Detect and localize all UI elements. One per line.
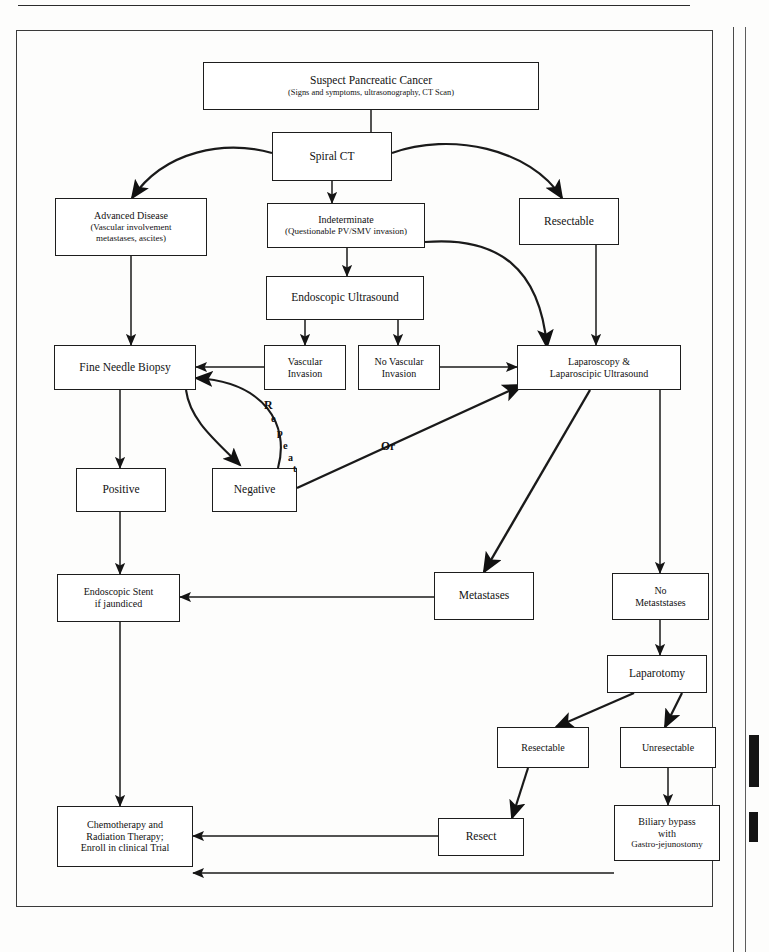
- node-unresectable-title: Unresectable: [642, 742, 694, 754]
- wire-negative-repeat-to-fnb: [196, 378, 281, 468]
- node-positive[interactable]: Positive: [76, 468, 166, 512]
- node-resectable-top[interactable]: Resectable: [519, 198, 619, 245]
- node-resect[interactable]: Resect: [438, 818, 524, 856]
- edge-label-repeat-letter-3: p: [277, 427, 283, 438]
- node-no-vascular-title: No Vascular: [375, 356, 424, 368]
- node-stent-title: Endoscopic Stent: [84, 586, 154, 598]
- node-eus-title: Endoscopic Ultrasound: [291, 291, 399, 305]
- wire-negative-or-to-laparoscopy: [297, 385, 522, 488]
- wire-spiralct-to-resectable: [392, 144, 562, 198]
- node-metastases-title: Metastases: [459, 589, 509, 603]
- node-no-metastases-title-2: Metaststases: [635, 597, 686, 609]
- node-laparoscopy-title-2: Laparoscipic Ultrasound: [550, 368, 649, 380]
- node-endoscopic-stent[interactable]: Endoscopic Stent if jaundiced: [57, 574, 180, 622]
- node-chemo-title-2: Radiation Therapy;: [86, 831, 163, 843]
- node-negative-title: Negative: [234, 483, 276, 497]
- node-laparoscopy-title: Laparoscopy &: [568, 356, 630, 368]
- node-advanced-subtitle: (Vascular involvement: [90, 222, 171, 233]
- node-laparotomy-title: Laparotomy: [629, 667, 685, 681]
- wire-laparotomy-to-resectable: [556, 693, 634, 727]
- node-advanced-disease[interactable]: Advanced Disease (Vascular involvement m…: [55, 198, 207, 256]
- node-resectable-bottom[interactable]: Resectable: [497, 727, 589, 768]
- node-stent-title-2: if jaundiced: [95, 598, 142, 610]
- node-chemotherapy-radiation[interactable]: Chemotherapy and Radiation Therapy; Enro…: [57, 806, 193, 867]
- wire-spiralct-to-advanced: [132, 148, 272, 198]
- node-indeterminate-subtitle: (Questionable PV/SMV invasion): [285, 226, 407, 237]
- edge-label-repeat-letter-4: e: [283, 440, 288, 451]
- node-advanced-subtitle-2: metastases, ascites): [96, 233, 166, 244]
- node-no-vascular-invasion[interactable]: No Vascular Invasion: [358, 345, 440, 390]
- node-chemo-title-3: Enroll in clinical Trial: [81, 842, 170, 854]
- node-fnb-title: Fine Needle Biopsy: [79, 361, 170, 375]
- edge-label-repeat-letter-2: e: [271, 413, 276, 424]
- node-negative[interactable]: Negative: [212, 468, 297, 512]
- node-fine-needle-biopsy[interactable]: Fine Needle Biopsy: [54, 345, 196, 390]
- node-vascular-title: Vascular: [288, 356, 322, 368]
- edge-label-repeat-letter-6: t: [293, 463, 296, 474]
- node-no-metastases-title: No: [654, 585, 666, 597]
- node-endoscopic-ultrasound[interactable]: Endoscopic Ultrasound: [266, 276, 424, 320]
- edge-label-or: Or: [381, 440, 395, 452]
- node-resectable-top-title: Resectable: [544, 215, 594, 229]
- node-advanced-title: Advanced Disease: [94, 210, 168, 222]
- edge-label-repeat-letter-5: a: [288, 452, 293, 463]
- node-suspect-title: Suspect Pancreatic Cancer: [310, 74, 432, 88]
- node-resect-title: Resect: [466, 830, 497, 844]
- node-suspect-subtitle: (Signs and symptoms, ultrasonography, CT…: [288, 88, 454, 98]
- node-unresectable[interactable]: Unresectable: [620, 727, 716, 768]
- scanned-page: Suspect Pancreatic Cancer (Signs and sym…: [0, 0, 769, 952]
- node-spiral-ct-title: Spiral CT: [309, 150, 354, 164]
- wire-laparoscopy-to-metastases: [484, 390, 590, 572]
- node-no-metastases[interactable]: No Metaststases: [612, 573, 709, 620]
- node-spiral-ct[interactable]: Spiral CT: [272, 132, 392, 181]
- wire-indeterminate-to-laparoscopy: [425, 241, 547, 347]
- node-laparoscopy-ultrasound[interactable]: Laparoscopy & Laparoscipic Ultrasound: [517, 345, 681, 390]
- wire-resectable-to-resect: [512, 768, 528, 818]
- node-biliary-title-3: Gastro-jejunostomy: [631, 839, 703, 850]
- node-laparotomy[interactable]: Laparotomy: [607, 655, 707, 693]
- node-indeterminate-title: Indeterminate: [318, 214, 374, 226]
- node-vascular-title-2: Invasion: [288, 368, 322, 380]
- node-suspect-pancreatic-cancer[interactable]: Suspect Pancreatic Cancer (Signs and sym…: [203, 62, 539, 110]
- node-metastases[interactable]: Metastases: [434, 572, 534, 620]
- edge-label-repeat-letter-1: R: [264, 398, 273, 413]
- node-vascular-invasion[interactable]: Vascular Invasion: [264, 345, 346, 390]
- node-biliary-title-2: with: [658, 828, 676, 840]
- node-biliary-bypass[interactable]: Biliary bypass with Gastro-jejunostomy: [614, 805, 720, 861]
- node-chemo-title: Chemotherapy and: [87, 819, 163, 831]
- wire-laparotomy-to-unresectable: [665, 693, 682, 727]
- node-positive-title: Positive: [102, 483, 139, 497]
- node-biliary-title: Biliary bypass: [638, 816, 696, 828]
- node-no-vascular-title-2: Invasion: [382, 368, 416, 380]
- node-indeterminate[interactable]: Indeterminate (Questionable PV/SMV invas…: [267, 203, 425, 248]
- node-resectable-bottom-title: Resectable: [521, 742, 564, 754]
- wire-fnb-to-negative: [186, 390, 240, 465]
